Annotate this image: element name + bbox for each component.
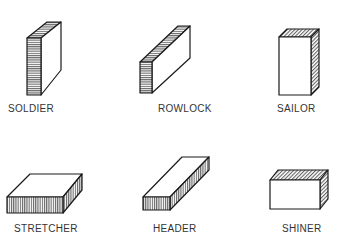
sailor-brick-drawing xyxy=(279,29,319,95)
rowlock-brick-drawing xyxy=(140,26,190,93)
sailor-label: SAILOR xyxy=(277,103,315,114)
shiner-brick-drawing xyxy=(270,170,328,209)
shiner-label: SHINER xyxy=(282,223,322,234)
header-brick-drawing xyxy=(143,157,209,210)
stretcher-label: STRETCHER xyxy=(14,223,78,234)
rowlock-label: ROWLOCK xyxy=(158,103,212,114)
soldier-brick-drawing xyxy=(27,22,61,95)
brick-positions-diagram: SOLDIER ROWLOCK SAILOR STRETCHER HEADER … xyxy=(0,0,337,242)
diagram-drawing xyxy=(0,0,337,242)
header-label: HEADER xyxy=(153,223,196,234)
stretcher-brick-drawing xyxy=(7,174,82,213)
soldier-label: SOLDIER xyxy=(8,103,54,114)
